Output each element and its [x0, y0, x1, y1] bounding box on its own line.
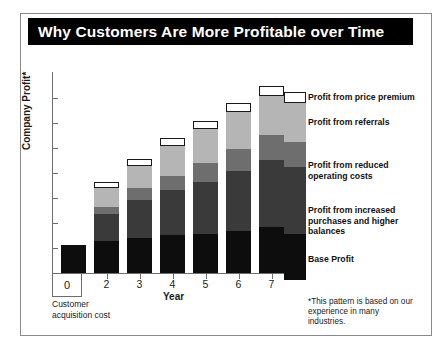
- bar-year-1[interactable]: [61, 245, 86, 273]
- bar-segment-referrals: [127, 166, 152, 189]
- bar-segment-costs: [127, 188, 152, 200]
- legend-item-base[interactable]: Base Profit: [308, 254, 354, 265]
- page-title: Why Customers Are More Profitable over T…: [38, 23, 384, 41]
- x-axis-label-5: 5: [194, 278, 218, 290]
- y-axis-tick: [53, 198, 58, 199]
- x-axis-label-2: 2: [95, 278, 119, 290]
- bar-segment-base: [160, 235, 185, 273]
- legend-item-premium[interactable]: Profit from price premium: [308, 92, 415, 103]
- legend-swatch-referrals: [284, 103, 306, 142]
- bar-year-2[interactable]: [94, 182, 119, 273]
- legend-item-referrals[interactable]: Profit from referrals: [308, 117, 390, 128]
- zero-label: 0: [64, 279, 70, 291]
- x-axis-label-3: 3: [128, 278, 152, 290]
- bar-segment-costs: [226, 149, 251, 171]
- bar-segment-base: [259, 227, 284, 273]
- bar-segment-base: [193, 234, 218, 273]
- legend-swatch-costs: [284, 142, 306, 167]
- legend-swatch-premium: [284, 92, 306, 103]
- legend-swatch-base: [284, 234, 306, 280]
- y-axis-tick: [53, 223, 58, 224]
- y-axis-tick: [53, 173, 58, 174]
- bar-year-5[interactable]: [193, 121, 218, 273]
- x-axis-label-6: 6: [227, 278, 251, 290]
- bar-segment-referrals: [94, 188, 119, 207]
- bar-segment-costs: [193, 163, 218, 181]
- bar-segment-costs: [160, 176, 185, 190]
- x-axis-title: Year: [163, 291, 184, 302]
- y-axis-tick: [53, 248, 58, 249]
- bar-segment-purchases: [226, 171, 251, 231]
- bar-segment-base: [61, 245, 86, 273]
- bar-segment-referrals: [226, 112, 251, 149]
- bar-segment-base: [226, 231, 251, 273]
- y-axis-tick: [53, 123, 58, 124]
- bar-year-7[interactable]: [259, 86, 284, 273]
- bar-segment-base: [94, 241, 119, 273]
- bar-segment-premium: [160, 138, 185, 146]
- bar-segment-costs: [94, 207, 119, 215]
- customer-acquisition-cost-note: Customer acquisition cost: [52, 299, 122, 320]
- x-axis-label-7: 7: [260, 278, 284, 290]
- bar-segment-costs: [259, 135, 284, 160]
- bar-segment-premium: [259, 86, 284, 96]
- y-axis-title: Company Profit*: [21, 72, 32, 150]
- chart-footnote: *This pattern is based on our experience…: [308, 297, 418, 327]
- x-axis-line: [52, 273, 284, 274]
- legend-item-purchases[interactable]: Profit from increased purchases and high…: [308, 205, 398, 237]
- legend-item-costs[interactable]: Profit from reduced operating costs: [308, 160, 389, 181]
- bar-year-6[interactable]: [226, 103, 251, 273]
- legend-swatch-purchases: [284, 167, 306, 234]
- bar-year-4[interactable]: [160, 138, 185, 273]
- bar-segment-premium: [193, 121, 218, 129]
- plot-area: [52, 72, 284, 274]
- y-axis-tick: [53, 148, 58, 149]
- bar-segment-base: [127, 238, 152, 273]
- customer-acquisition-cost-box: 0: [52, 274, 82, 297]
- bar-segment-referrals: [259, 96, 284, 135]
- bar-segment-purchases: [127, 200, 152, 238]
- bar-segment-premium: [127, 159, 152, 166]
- bar-segment-referrals: [160, 146, 185, 176]
- chart-title-banner: Why Customers Are More Profitable over T…: [28, 18, 413, 45]
- bar-segment-purchases: [94, 214, 119, 241]
- y-axis-tick: [53, 98, 58, 99]
- bar-segment-referrals: [193, 129, 218, 163]
- legend-swatch-stack: [284, 92, 306, 280]
- x-axis-label-4: 4: [161, 278, 185, 290]
- bar-segment-purchases: [193, 182, 218, 234]
- bar-segment-premium: [226, 103, 251, 112]
- bar-segment-purchases: [160, 190, 185, 235]
- bar-year-3[interactable]: [127, 159, 152, 273]
- bar-segment-purchases: [259, 160, 284, 227]
